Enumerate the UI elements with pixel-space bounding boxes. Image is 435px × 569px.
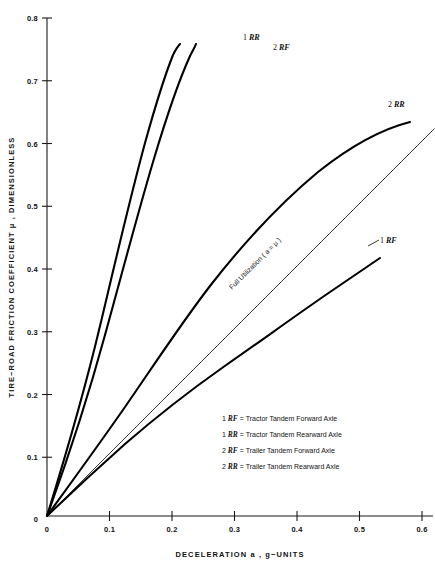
y-tick-label: 0.4 [27, 265, 39, 274]
curve-label-2rf: 2 RF [273, 43, 290, 52]
y-tick-label: 0.3 [27, 328, 38, 337]
curve-labels-group: 1 RR 2 RF 2 RR 1 RF [243, 33, 405, 246]
x-tick-label: 0.1 [104, 525, 115, 534]
curve-2rf [47, 44, 196, 516]
x-tick-label: 0.2 [166, 525, 177, 534]
curve-label-1rf: 1 RF [380, 236, 397, 245]
curve-1rr [47, 44, 180, 516]
curve-label-1rr: 1 RR [243, 33, 260, 42]
y-tick-label: 0.7 [27, 77, 38, 86]
x-axis-title: DECELERATION a , g−UNITS [176, 550, 305, 559]
chart-plot-area: 0.8 0.7 0.6 0.5 0.4 0.3 0.2 0.1 0 0.1 0.… [0, 0, 435, 569]
y-axis-title: TIRE−ROAD FRICTION COEFFICIENT μ , DIMEN… [7, 137, 16, 398]
y-tick-label: 0.6 [27, 140, 38, 149]
y-tick-label: 0.1 [27, 453, 38, 462]
x-tick-label: 0.5 [354, 525, 365, 534]
x-tick-group: 0.1 0.2 0.3 0.4 0.5 0.6 0 [45, 511, 428, 534]
y-tick-group: 0.8 0.7 0.6 0.5 0.4 0.3 0.2 0.1 0 [27, 14, 52, 524]
y-tick-label: 0.8 [27, 14, 38, 23]
y-tick-label: 0.2 [27, 391, 38, 400]
x-tick-label: 0.6 [416, 525, 427, 534]
full-utilization-line [47, 129, 435, 517]
legend-row: 2 RF = Trailer Tandem Forward Axle [222, 446, 335, 455]
legend-row: 2 RR = Trailer Tandem Rearward Axle [222, 462, 340, 471]
legend: 1 RF = Tractor Tandem Forward Axle 1 RR … [222, 414, 342, 471]
curve-1rf [47, 258, 380, 516]
curve-label-1rf-leader [368, 240, 379, 246]
y-tick-label-zero: 0 [34, 515, 38, 524]
full-utilization-label: Full Utilization ( a = μ ) [228, 236, 283, 291]
curve-label-2rr: 2 RR [388, 100, 405, 109]
x-tick-label: 0.3 [229, 525, 240, 534]
legend-row: 1 RF = Tractor Tandem Forward Axle [222, 414, 337, 423]
chart-figure: 0.8 0.7 0.6 0.5 0.4 0.3 0.2 0.1 0 0.1 0.… [0, 0, 435, 569]
y-tick-label: 0.5 [27, 202, 38, 211]
axis-group [47, 18, 433, 516]
legend-row: 1 RR = Tractor Tandem Rearward Axle [222, 430, 342, 439]
x-tick-label-zero: 0 [45, 525, 49, 534]
x-tick-label: 0.4 [291, 525, 303, 534]
